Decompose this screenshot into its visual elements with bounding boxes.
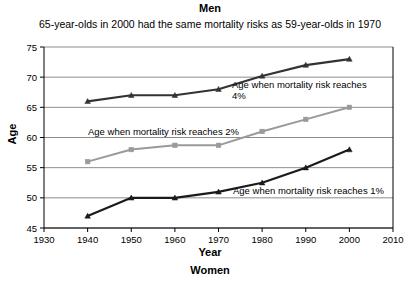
x-tick-label: 2000: [339, 234, 360, 245]
annotation-4pct-line1: Age when mortality risk reaches: [232, 79, 367, 90]
y-tick-label: 45: [26, 223, 37, 234]
series-marker-1: [303, 117, 308, 122]
y-tick-label: 50: [26, 192, 37, 203]
series-marker-1: [85, 159, 90, 164]
annotation-2pct: Age when mortality risk reaches 2%: [88, 126, 240, 137]
x-tick-label: 1960: [164, 234, 185, 245]
x-tick-label: 1950: [121, 234, 142, 245]
annotation-1pct: Age when mortality risk reaches 1%: [233, 185, 385, 196]
y-tick-label: 55: [26, 162, 37, 173]
annotation-4pct-line2: 4%: [232, 90, 246, 101]
y-tick-label: 75: [26, 42, 37, 53]
series-marker-1: [129, 147, 134, 152]
x-tick-label: 1990: [295, 234, 316, 245]
series-line-2: [88, 150, 350, 216]
x-tick-label: 1930: [33, 234, 54, 245]
x-tick-label: 2010: [382, 234, 403, 245]
x-tick-label: 1980: [252, 234, 273, 245]
chart-page: Men 65-year-olds in 2000 had the same mo…: [0, 0, 420, 283]
y-tick-label: 65: [26, 102, 37, 113]
x-tick-label: 1970: [208, 234, 229, 245]
chart-plot: 4550556065707519301940195019601970198019…: [0, 0, 420, 283]
series-marker-1: [173, 143, 178, 148]
series-marker-1: [216, 143, 221, 148]
y-tick-label: 60: [26, 132, 37, 143]
y-tick-label: 70: [26, 72, 37, 83]
x-tick-label: 1940: [77, 234, 98, 245]
series-marker-1: [260, 129, 265, 134]
series-marker-1: [347, 105, 352, 110]
